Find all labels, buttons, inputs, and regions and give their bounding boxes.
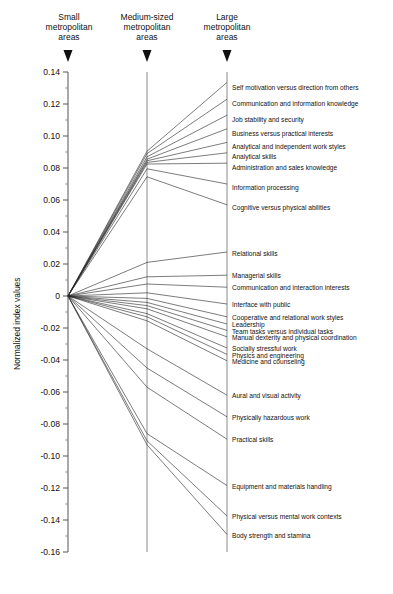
y-tick-label: 0.12 bbox=[43, 99, 60, 109]
y-tick-label: 0.04 bbox=[43, 227, 60, 237]
y-tick-label: -0.14 bbox=[40, 515, 60, 525]
series-label: Managerial skills bbox=[232, 272, 281, 280]
column-arrow-small bbox=[64, 50, 73, 62]
y-tick-label: 0 bbox=[55, 291, 60, 301]
column-arrow-medium bbox=[143, 50, 152, 62]
series-label: Communication and interaction interests bbox=[232, 284, 350, 291]
y-tick-label: 0.06 bbox=[43, 195, 60, 205]
y-tick-label: 0.02 bbox=[43, 259, 60, 269]
series-label: Job stability and security bbox=[232, 116, 305, 124]
series-label: Business versus practical interests bbox=[232, 130, 334, 138]
series-label: Body strength and stamina bbox=[232, 532, 311, 540]
y-tick-label: 0.14 bbox=[43, 67, 60, 77]
y-axis: 0.140.120.100.080.060.040.020-0.02-0.04-… bbox=[40, 67, 68, 557]
series-label: Administration and sales knowledge bbox=[232, 164, 338, 172]
slopegraph-chart: Small metropolitan areas Medium-sized me… bbox=[0, 0, 393, 594]
series-label: Equipment and materials handling bbox=[232, 483, 332, 491]
y-tick-label: 0.10 bbox=[43, 131, 60, 141]
column-arrows bbox=[64, 50, 232, 62]
series-label: Medicine and counseling bbox=[232, 358, 305, 366]
y-tick-label: -0.08 bbox=[40, 419, 60, 429]
series-label: Relational skills bbox=[232, 250, 278, 257]
series-label: Communication and information knowledge bbox=[232, 100, 359, 108]
y-tick-label: -0.12 bbox=[40, 483, 60, 493]
y-tick-label: -0.02 bbox=[40, 323, 60, 333]
series-label: Interface with public bbox=[232, 301, 291, 309]
series-label: Aural and visual activity bbox=[232, 392, 302, 400]
y-tick-label: -0.16 bbox=[40, 547, 60, 557]
series-label: Self motivation versus direction from ot… bbox=[232, 84, 359, 91]
y-tick-label: -0.10 bbox=[40, 451, 60, 461]
series-label: Analytical skills bbox=[232, 153, 277, 161]
series-label: Manual dexterity and physical coordinati… bbox=[232, 334, 357, 342]
y-tick-label: -0.06 bbox=[40, 387, 60, 397]
series-label: Analytical and independent work styles bbox=[232, 143, 346, 151]
column-arrow-large bbox=[223, 50, 232, 62]
series-label: Physical versus mental work contexts bbox=[232, 513, 342, 521]
y-tick-label: -0.04 bbox=[40, 355, 60, 365]
series-labels: Self motivation versus direction from ot… bbox=[232, 84, 359, 540]
series-label: Information processing bbox=[232, 184, 299, 192]
series-label: Practical skills bbox=[232, 436, 274, 443]
series-label: Cognitive versus physical abilities bbox=[232, 204, 331, 212]
y-tick-label: 0.08 bbox=[43, 163, 60, 173]
series-label: Physically hazardous work bbox=[232, 414, 310, 422]
plot-area: 0.140.120.100.080.060.040.020-0.02-0.04-… bbox=[0, 0, 393, 594]
